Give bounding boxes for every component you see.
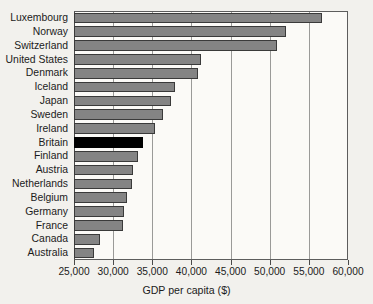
category-label: Britain <box>39 136 68 150</box>
bar <box>74 220 123 231</box>
bar-highlighted <box>74 137 143 148</box>
axis-tick-label: 60,000 <box>332 266 363 277</box>
axis-tick <box>152 260 153 265</box>
bar <box>74 13 322 24</box>
bar-slot <box>74 53 348 67</box>
value-axis-labels: 25,00030,00035,00040,00045,00050,00055,0… <box>0 266 373 282</box>
category-label: Japan <box>40 94 68 108</box>
bar-slot <box>74 11 348 25</box>
axis-tick-label: 45,000 <box>215 266 246 277</box>
bar <box>74 234 100 245</box>
category-label: Iceland <box>34 80 68 94</box>
category-label: Austria <box>36 163 68 177</box>
bar-slot <box>74 149 348 163</box>
axis-tick <box>348 260 349 265</box>
category-label: Canada <box>32 232 68 246</box>
bar <box>74 96 171 107</box>
bar-slot <box>74 80 348 94</box>
axis-tick <box>309 260 310 265</box>
bar <box>74 179 132 190</box>
category-label: Australia <box>28 246 68 260</box>
category-label: Belgium <box>30 191 68 205</box>
bar <box>74 54 201 65</box>
axis-tick <box>191 260 192 265</box>
category-label: Switzerland <box>14 39 68 53</box>
bar-slot <box>74 205 348 219</box>
bar <box>74 68 198 79</box>
bar-slot <box>74 122 348 136</box>
axis-tick <box>113 260 114 265</box>
axis-tick-label: 25,000 <box>58 266 89 277</box>
category-label: Netherlands <box>12 177 68 191</box>
category-label: Germany <box>25 205 68 219</box>
bar-slot <box>74 246 348 260</box>
bar <box>74 192 127 203</box>
bar-slot <box>74 39 348 53</box>
axis-tick-label: 35,000 <box>137 266 168 277</box>
category-label: Finland <box>34 149 68 163</box>
category-label: Ireland <box>36 122 68 136</box>
bar <box>74 26 286 37</box>
category-label: France <box>36 219 68 233</box>
bar-slot <box>74 191 348 205</box>
bar-slot <box>74 25 348 39</box>
axis-tick-label: 50,000 <box>254 266 285 277</box>
bar <box>74 248 94 259</box>
bar-slot <box>74 94 348 108</box>
bar-slot <box>74 108 348 122</box>
value-axis-title: GDP per capita ($) <box>0 284 373 296</box>
category-axis-labels: LuxembourgNorwaySwitzerlandUnited States… <box>0 11 71 260</box>
category-label: Sweden <box>30 108 68 122</box>
gdp-per-capita-bar-chart: LuxembourgNorwaySwitzerlandUnited States… <box>0 0 373 304</box>
bar <box>74 82 175 93</box>
axis-tick <box>270 260 271 265</box>
axis-tick-label: 40,000 <box>176 266 207 277</box>
axis-tick-label: 30,000 <box>98 266 129 277</box>
bar-slot <box>74 66 348 80</box>
bar <box>74 109 163 120</box>
bars-layer <box>74 11 348 260</box>
axis-tick-label: 55,000 <box>293 266 324 277</box>
bar-slot <box>74 177 348 191</box>
bar-slot <box>74 136 348 150</box>
axis-tick <box>231 260 232 265</box>
category-label: United States <box>6 53 68 67</box>
bar <box>74 151 138 162</box>
category-label: Denmark <box>26 66 68 80</box>
bar <box>74 206 124 217</box>
category-label: Norway <box>33 25 68 39</box>
axis-tick <box>74 260 75 265</box>
bar-slot <box>74 219 348 233</box>
category-label: Luxembourg <box>10 11 68 25</box>
bar <box>74 123 155 134</box>
bar <box>74 165 133 176</box>
bar <box>74 40 277 51</box>
bar-slot <box>74 232 348 246</box>
bar-slot <box>74 163 348 177</box>
